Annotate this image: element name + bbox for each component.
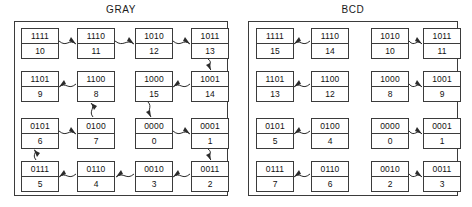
gray-cell-3-code: 1011 [192,29,228,44]
gray-cell-15-dec: 2 [192,177,228,191]
gray-cell-13-code: 0110 [78,162,114,177]
bcd-cell-4[interactable]: 1101 13 [256,71,294,102]
gray-cell-4-code: 1101 [22,72,58,87]
bcd-cell-10[interactable]: 0000 0 [371,118,409,149]
bcd-cell-5-dec: 12 [312,87,348,101]
gray-cell-9[interactable]: 0100 7 [77,118,115,149]
bcd-cell-7-dec: 9 [424,87,460,101]
gray-cell-5-dec: 8 [78,87,114,101]
bcd-cell-9[interactable]: 0100 4 [311,118,349,149]
bcd-cell-9-dec: 4 [312,134,348,148]
gray-cell-8-code: 0101 [22,119,58,134]
gray-cell-10[interactable]: 0000 0 [135,118,173,149]
bcd-cell-0-code: 1111 [257,29,293,44]
bcd-cell-0-dec: 15 [257,44,293,58]
gray-cell-9-dec: 7 [78,134,114,148]
gray-cell-1-code: 1110 [78,29,114,44]
bcd-cell-6[interactable]: 1000 8 [371,71,409,102]
gray-cell-6[interactable]: 1000 15 [135,71,173,102]
bcd-cell-2-dec: 10 [372,44,408,58]
bcd-cell-2[interactable]: 1010 10 [371,28,409,59]
panel-title-gray: GRAY [14,4,228,15]
gray-cell-10-dec: 0 [136,134,172,148]
bcd-cell-12-dec: 7 [257,177,293,191]
bcd-cell-12[interactable]: 0111 7 [256,161,294,192]
bcd-cell-8-code: 0101 [257,119,293,134]
bcd-cell-6-code: 1000 [372,72,408,87]
gray-cell-2[interactable]: 1010 12 [135,28,173,59]
bcd-cell-8-dec: 5 [257,134,293,148]
bcd-cell-14-dec: 2 [372,177,408,191]
gray-cell-8[interactable]: 0101 6 [21,118,59,149]
gray-cell-2-dec: 12 [136,44,172,58]
gray-cell-5-code: 1100 [78,72,114,87]
gray-cell-10-code: 0000 [136,119,172,134]
bcd-cell-10-code: 0000 [372,119,408,134]
gray-cell-6-code: 1000 [136,72,172,87]
bcd-cell-12-code: 0111 [257,162,293,177]
bcd-cell-14-code: 0010 [372,162,408,177]
bcd-cell-15-dec: 3 [424,177,460,191]
bcd-cell-1[interactable]: 1110 14 [311,28,349,59]
panel-title-bcd: BCD [248,4,458,15]
bcd-cell-10-dec: 0 [372,134,408,148]
diagram-canvas: GRAY BCD 1111 10 1110 11 1010 12 1011 13… [0,0,472,207]
gray-cell-14[interactable]: 0010 3 [135,161,173,192]
bcd-cell-8[interactable]: 0101 5 [256,118,294,149]
gray-cell-13[interactable]: 0110 4 [77,161,115,192]
gray-cell-11[interactable]: 0001 1 [191,118,229,149]
gray-cell-2-code: 1010 [136,29,172,44]
gray-cell-3[interactable]: 1011 13 [191,28,229,59]
bcd-cell-11[interactable]: 0001 1 [423,118,461,149]
gray-cell-0[interactable]: 1111 10 [21,28,59,59]
bcd-cell-3-code: 1011 [424,29,460,44]
gray-cell-13-dec: 4 [78,177,114,191]
bcd-cell-3-dec: 11 [424,44,460,58]
bcd-cell-7[interactable]: 1001 9 [423,71,461,102]
gray-cell-9-code: 0100 [78,119,114,134]
gray-cell-1[interactable]: 1110 11 [77,28,115,59]
bcd-cell-6-dec: 8 [372,87,408,101]
gray-cell-14-code: 0010 [136,162,172,177]
bcd-cell-7-code: 1001 [424,72,460,87]
bcd-cell-15[interactable]: 0011 3 [423,161,461,192]
bcd-cell-5[interactable]: 1100 12 [311,71,349,102]
gray-cell-11-dec: 1 [192,134,228,148]
gray-cell-15[interactable]: 0011 2 [191,161,229,192]
bcd-cell-2-code: 1010 [372,29,408,44]
bcd-cell-0[interactable]: 1111 15 [256,28,294,59]
gray-cell-4[interactable]: 1101 9 [21,71,59,102]
gray-cell-3-dec: 13 [192,44,228,58]
bcd-cell-4-code: 1101 [257,72,293,87]
bcd-cell-13-dec: 6 [312,177,348,191]
gray-cell-0-dec: 10 [22,44,58,58]
gray-cell-12-code: 0111 [22,162,58,177]
bcd-cell-5-code: 1100 [312,72,348,87]
gray-cell-1-dec: 11 [78,44,114,58]
bcd-cell-11-code: 0001 [424,119,460,134]
bcd-cell-14[interactable]: 0010 2 [371,161,409,192]
gray-cell-0-code: 1111 [22,29,58,44]
bcd-cell-3[interactable]: 1011 11 [423,28,461,59]
bcd-cell-9-code: 0100 [312,119,348,134]
bcd-cell-1-code: 1110 [312,29,348,44]
bcd-cell-4-dec: 13 [257,87,293,101]
gray-cell-5[interactable]: 1100 8 [77,71,115,102]
gray-cell-6-dec: 15 [136,87,172,101]
gray-cell-15-code: 0011 [192,162,228,177]
gray-cell-7-dec: 14 [192,87,228,101]
bcd-cell-13-code: 0110 [312,162,348,177]
gray-cell-14-dec: 3 [136,177,172,191]
bcd-cell-15-code: 0011 [424,162,460,177]
gray-cell-12[interactable]: 0111 5 [21,161,59,192]
gray-cell-7-code: 1001 [192,72,228,87]
gray-cell-11-code: 0001 [192,119,228,134]
gray-cell-12-dec: 5 [22,177,58,191]
gray-cell-4-dec: 9 [22,87,58,101]
bcd-cell-11-dec: 1 [424,134,460,148]
bcd-cell-13[interactable]: 0110 6 [311,161,349,192]
bcd-cell-1-dec: 14 [312,44,348,58]
gray-cell-8-dec: 6 [22,134,58,148]
gray-cell-7[interactable]: 1001 14 [191,71,229,102]
